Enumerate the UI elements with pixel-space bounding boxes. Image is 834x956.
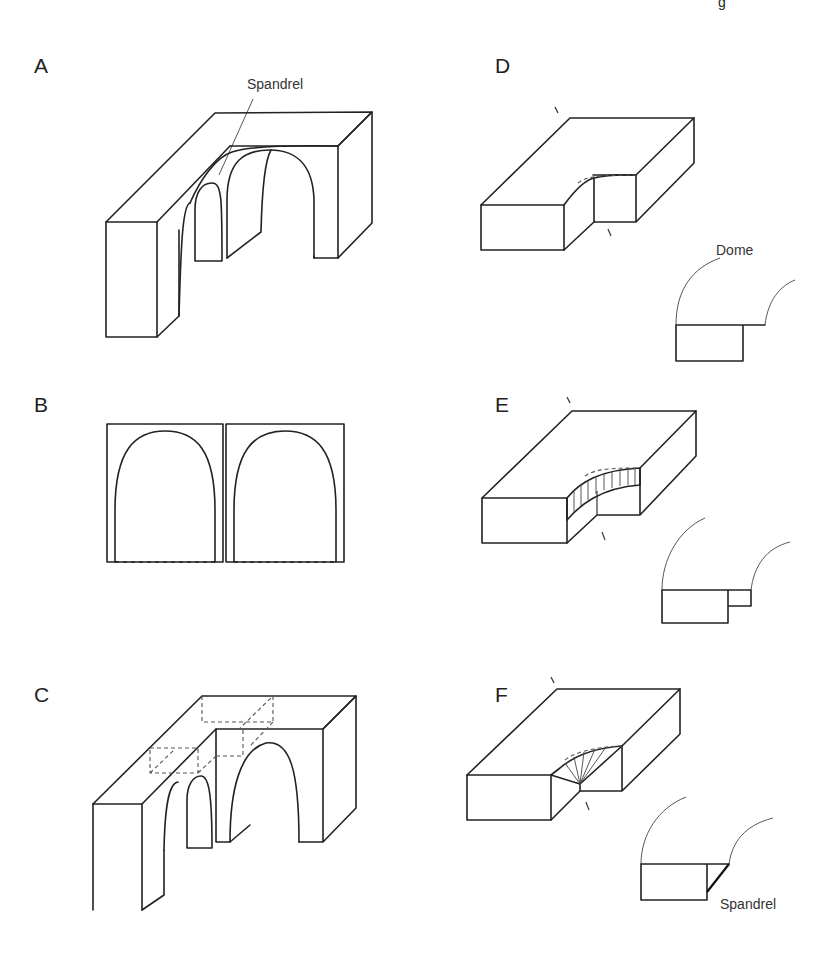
dome-curve-left-f	[641, 797, 686, 864]
panel-label-a: A	[34, 54, 48, 77]
hidden-block-upper	[202, 696, 273, 746]
large-arch	[227, 150, 314, 258]
section-arrow-bottom	[608, 229, 611, 236]
elevation-bay-left	[107, 424, 223, 562]
left-pier-front	[106, 222, 157, 337]
pendentive-cut	[564, 178, 594, 222]
slab-front-face	[481, 205, 564, 250]
left-pier-front-c	[93, 804, 142, 910]
elevation-bay-right	[226, 424, 344, 562]
spandrel-label-f: Spandrel	[720, 896, 776, 912]
large-arch-c	[230, 743, 299, 842]
panel-c: C	[34, 683, 356, 910]
right-block-c	[299, 696, 356, 842]
dome-curve-right	[765, 280, 795, 325]
dome-curve-right-e	[751, 542, 790, 590]
small-arch	[195, 183, 222, 261]
architecture-figure: A Spandrel B C	[0, 0, 834, 956]
slab-top-face	[481, 118, 694, 205]
arcade-top-face	[106, 112, 372, 222]
arcade-top-face-c	[93, 696, 356, 804]
panel-e: E	[482, 393, 790, 623]
slab-front-face-f	[467, 775, 551, 820]
slab-top-face-e	[482, 411, 696, 498]
panel-label-e: E	[495, 393, 509, 416]
dome-curve-left	[676, 258, 720, 325]
panel-label-c: C	[34, 683, 49, 706]
spandrel-edge	[707, 864, 729, 892]
small-arch-c	[187, 776, 212, 848]
panel-label-b: B	[34, 393, 48, 416]
dome-curve-left-e	[662, 518, 705, 590]
dome-base-section	[676, 325, 765, 361]
slab-front-face-e	[482, 498, 567, 543]
corbel-base-section	[662, 590, 751, 623]
section-arrow-top	[555, 107, 558, 113]
panel-label-d: D	[495, 54, 510, 77]
section-arrow-top-e	[567, 397, 570, 403]
section-arrow-bottom-e	[602, 532, 605, 540]
dome-label: Dome	[716, 242, 754, 258]
section-arrow-top-f	[551, 677, 554, 683]
elevation-arch-right	[234, 431, 336, 562]
panel-f: F Spandrel	[467, 677, 776, 912]
panel-a: A Spandrel	[34, 54, 372, 337]
panel-b: B	[34, 393, 344, 562]
panel-label-f: F	[495, 683, 508, 706]
spandrel-label-a: Spandrel	[247, 76, 303, 92]
dome-curve-right-f	[729, 818, 773, 864]
elevation-arch-left	[115, 431, 215, 562]
right-block-side	[338, 112, 372, 258]
panel-d: D Dome	[481, 54, 795, 361]
section-arrow-bottom-f	[586, 802, 589, 810]
